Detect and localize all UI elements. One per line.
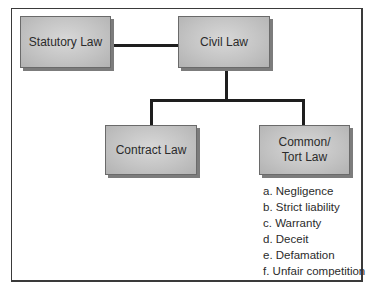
list-item: a. Negligence [263,183,365,199]
contract-law-node: Contract Law [105,125,197,175]
list-item: f. Unfair competition [263,263,365,279]
contract-law-label: Contract Law [116,143,187,158]
connector-civil-down [225,70,228,101]
connector-statutory-civil [111,44,178,47]
civil-law-label: Civil Law [200,35,248,50]
tort-types-list: a. Negligence b. Strict liability c. War… [263,183,365,279]
connector-to-common-tort [302,99,305,125]
list-item: d. Deceit [263,231,365,247]
common-tort-law-label-line2: Tort Law [282,150,327,165]
statutory-law-node: Statutory Law [20,16,111,68]
list-item: b. Strict liability [263,199,365,215]
connector-horizontal-branch [150,99,305,102]
common-tort-law-label-line1: Common/ [278,135,330,150]
civil-law-node: Civil Law [178,16,270,68]
list-item: c. Warranty [263,215,365,231]
list-item: e. Defamation [263,247,365,263]
statutory-law-label: Statutory Law [29,35,102,50]
connector-to-contract [150,99,153,125]
common-tort-law-node: Common/ Tort Law [259,125,350,175]
